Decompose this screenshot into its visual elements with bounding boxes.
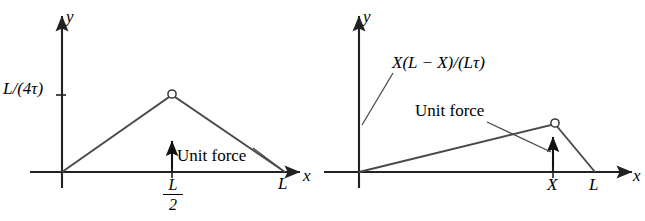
right-peak-marker xyxy=(551,119,559,127)
left-x-tick-label-half: L 2 xyxy=(163,177,183,214)
right-formula-leader xyxy=(362,73,393,125)
left-x-end-label: L xyxy=(278,175,287,192)
right-x-tick-label: X xyxy=(547,176,557,193)
fraction-bar xyxy=(163,194,183,195)
right-unit-force-label: Unit force xyxy=(415,102,484,119)
left-peak-marker xyxy=(168,90,176,98)
left-unit-force-leader xyxy=(253,148,281,169)
figure-container: y x L/(4τ) L 2 L Unit force y x X(L − X)… xyxy=(0,0,645,221)
left-y-axis-label: y xyxy=(66,8,74,25)
right-formula-label: X(L − X)/(Lτ) xyxy=(392,54,485,71)
fraction-denominator: 2 xyxy=(163,196,183,213)
left-influence-line xyxy=(62,95,285,172)
left-unit-force-label: Unit force xyxy=(177,147,246,164)
left-y-tick-label: L/(4τ) xyxy=(3,80,43,97)
right-x-axis-label: x xyxy=(633,167,641,184)
right-y-axis-label: y xyxy=(363,8,371,25)
right-x-end-label: L xyxy=(589,176,598,193)
left-x-axis-label: x xyxy=(303,167,311,184)
right-influence-line xyxy=(359,124,595,172)
fraction-numerator: L xyxy=(163,177,183,194)
left-panel-graphics xyxy=(30,16,300,188)
